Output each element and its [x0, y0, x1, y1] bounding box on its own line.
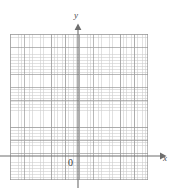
- y-axis-label: y: [74, 11, 78, 20]
- coordinate-plane-figure: y x 0: [0, 0, 172, 188]
- origin-label: 0: [68, 158, 73, 168]
- x-axis-label: x: [163, 154, 167, 163]
- axes-svg: [0, 0, 172, 188]
- y-axis-arrowhead: [75, 24, 82, 31]
